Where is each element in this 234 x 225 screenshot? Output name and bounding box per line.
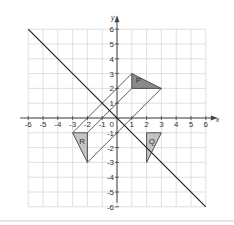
coordinate-grid: xy-6-5-4-3-2-1123456654321-1-2-3-4-5-60P… bbox=[0, 0, 234, 225]
x-tick-label: 6 bbox=[204, 120, 209, 129]
x-tick-label: 5 bbox=[189, 120, 194, 129]
x-tick-label: -5 bbox=[39, 120, 47, 129]
y-tick-label: -5 bbox=[107, 188, 115, 197]
x-tick-label: 2 bbox=[144, 120, 149, 129]
x-tick-label: -3 bbox=[69, 120, 77, 129]
coordinate-diagram: xy-6-5-4-3-2-1123456654321-1-2-3-4-5-60P… bbox=[0, 0, 234, 225]
y-tick-label: -3 bbox=[107, 158, 115, 167]
y-tick-label: -6 bbox=[107, 203, 115, 212]
x-tick-label: 4 bbox=[174, 120, 179, 129]
x-tick-label: -1 bbox=[99, 120, 107, 129]
x-axis-label: x bbox=[215, 116, 220, 123]
triangle-label-p: P bbox=[136, 76, 141, 85]
x-tick-label: -2 bbox=[84, 120, 92, 129]
triangle-label-r: R bbox=[79, 137, 85, 146]
y-tick-label: 3 bbox=[110, 70, 115, 79]
y-tick-label: 4 bbox=[110, 55, 115, 64]
y-axis-arrow-icon bbox=[115, 15, 120, 22]
x-tick-label: 3 bbox=[159, 120, 164, 129]
x-tick-label: -4 bbox=[54, 120, 62, 129]
x-tick-label: 1 bbox=[130, 120, 135, 129]
x-tick-label: -6 bbox=[25, 120, 33, 129]
triangle-label-q: Q bbox=[149, 137, 155, 146]
y-tick-label: -4 bbox=[107, 173, 115, 182]
origin-label: 0 bbox=[110, 120, 115, 129]
y-tick-label: 6 bbox=[110, 25, 115, 34]
y-tick-label: 5 bbox=[110, 40, 115, 49]
y-axis-label: y bbox=[110, 14, 115, 22]
y-tick-label: -2 bbox=[107, 144, 115, 153]
bottom-divider bbox=[0, 220, 234, 222]
